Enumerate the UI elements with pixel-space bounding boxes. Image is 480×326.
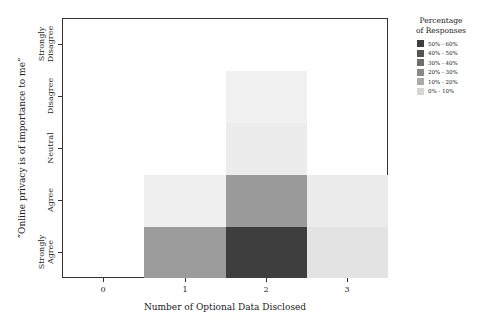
y-label-agree: Agree	[46, 188, 55, 212]
legend-item: 50% - 60%	[417, 39, 477, 49]
legend-title-line2: of Responses	[405, 26, 477, 36]
y-tick	[58, 96, 62, 97]
legend-item: 0% - 10%	[417, 87, 477, 97]
y-tick	[58, 252, 62, 253]
legend-label: 40% - 50%	[428, 50, 458, 56]
legend-label: 30% - 40%	[428, 60, 458, 66]
cell-x2-strongly-agree	[226, 227, 307, 278]
legend-item: 40% - 50%	[417, 49, 477, 59]
legend-swatch	[417, 50, 424, 57]
legend-item: 30% - 40%	[417, 58, 477, 68]
legend-title: Percentage of Responses	[405, 16, 477, 36]
y-tick	[58, 200, 62, 201]
legend-item: 20% - 30%	[417, 68, 477, 78]
heatmap-plot-area	[62, 18, 388, 278]
x-label-3: 3	[337, 285, 357, 294]
y-axis-title: “Online privacy is of importance to me”	[17, 57, 27, 238]
legend-label: 20% - 30%	[428, 69, 458, 75]
x-label-1: 1	[175, 285, 195, 294]
legend-swatch	[417, 69, 424, 76]
x-axis-title: Number of Optional Data Disclosed	[62, 302, 388, 312]
y-tick	[58, 148, 62, 149]
x-tick	[185, 278, 186, 282]
y-label-strongly-disagree: Strongly Disagree	[37, 26, 55, 62]
legend-label: 10% - 20%	[428, 79, 458, 85]
cell-x2-neutral	[226, 123, 307, 175]
legend-swatch	[417, 59, 424, 66]
x-tick	[103, 278, 104, 282]
y-label-strongly-agree: Strongly Agree	[37, 235, 55, 270]
legend-swatch	[417, 88, 424, 95]
x-tick	[266, 278, 267, 282]
cell-x3-strongly-agree	[307, 227, 388, 278]
y-label-disagree: Disagree	[46, 78, 55, 114]
y-label-neutral: Neutral	[46, 132, 55, 163]
cell-x1-strongly-agree	[144, 227, 226, 278]
x-tick	[347, 278, 348, 282]
cell-x2-agree	[226, 175, 307, 227]
legend-title-line1: Percentage	[405, 16, 477, 26]
cell-x3-agree	[307, 175, 388, 227]
legend-swatch	[417, 78, 424, 85]
legend-label: 0% - 10%	[428, 88, 454, 94]
cell-x2-disagree	[226, 71, 307, 123]
legend: Percentage of Responses 50% - 60% 40% - …	[405, 16, 477, 96]
legend-label: 50% - 60%	[428, 41, 458, 47]
legend-item: 10% - 20%	[417, 77, 477, 87]
cell-x1-agree	[144, 175, 226, 227]
x-label-0: 0	[93, 285, 113, 294]
y-tick	[58, 44, 62, 45]
x-label-2: 2	[256, 285, 276, 294]
legend-swatch	[417, 40, 424, 47]
